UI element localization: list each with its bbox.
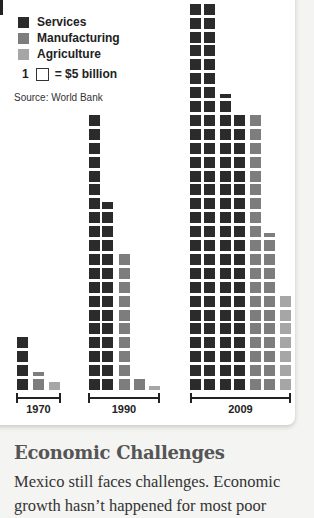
value-block (204, 296, 215, 307)
value-block (234, 143, 245, 154)
value-block (119, 254, 130, 265)
value-block (280, 296, 291, 307)
value-block (220, 282, 231, 293)
value-block (204, 254, 215, 265)
value-block (250, 337, 261, 348)
value-block (250, 254, 261, 265)
value-block (264, 310, 275, 321)
value-block (89, 184, 100, 195)
value-block (220, 254, 231, 265)
value-block (17, 379, 28, 390)
value-block (190, 254, 201, 265)
value-block (119, 296, 130, 307)
value-block (204, 73, 215, 84)
partial-value-block (49, 382, 60, 390)
section-body: Mexico still faces challenges. Economic … (14, 470, 314, 518)
value-block (220, 379, 231, 390)
value-block (204, 323, 215, 334)
value-block (220, 129, 231, 140)
value-block (234, 115, 245, 126)
value-block (102, 365, 113, 376)
value-block (264, 379, 275, 390)
value-block (190, 115, 201, 126)
value-block (234, 282, 245, 293)
value-block (220, 240, 231, 251)
value-block (220, 226, 231, 237)
value-block (204, 157, 215, 168)
value-block (280, 379, 291, 390)
value-block (190, 296, 201, 307)
value-block (204, 226, 215, 237)
value-block (190, 240, 201, 251)
value-block (250, 351, 261, 362)
year-range-bracket (88, 397, 160, 399)
value-block (190, 73, 201, 84)
value-block (102, 254, 113, 265)
partial-value-block (220, 94, 231, 98)
value-block (190, 184, 201, 195)
partial-value-block (149, 386, 160, 390)
value-block (234, 379, 245, 390)
value-block (17, 337, 28, 348)
value-block (119, 379, 130, 390)
value-block (264, 282, 275, 293)
value-block (250, 129, 261, 140)
value-block (234, 226, 245, 237)
value-block (220, 143, 231, 154)
value-block (280, 365, 291, 376)
value-block (102, 379, 113, 390)
value-block (220, 184, 231, 195)
value-block (17, 365, 28, 376)
value-block (190, 212, 201, 223)
value-block (33, 379, 44, 390)
value-block (220, 157, 231, 168)
value-block (234, 198, 245, 209)
value-block (220, 115, 231, 126)
value-block (220, 296, 231, 307)
value-block (190, 268, 201, 279)
value-block (190, 32, 201, 43)
value-block (102, 337, 113, 348)
value-block (102, 323, 113, 334)
value-block (250, 171, 261, 182)
value-block (234, 254, 245, 265)
partial-value-block (264, 233, 275, 237)
value-block (234, 323, 245, 334)
value-block (190, 351, 201, 362)
value-block (190, 282, 201, 293)
value-block (250, 268, 261, 279)
value-block (204, 282, 215, 293)
value-block (119, 282, 130, 293)
value-block (234, 171, 245, 182)
value-block (250, 240, 261, 251)
value-block (250, 143, 261, 154)
value-block (204, 4, 215, 15)
value-block (204, 101, 215, 112)
value-block (204, 198, 215, 209)
value-block (190, 59, 201, 70)
value-block (204, 310, 215, 321)
value-block (89, 157, 100, 168)
value-block (190, 337, 201, 348)
year-range-bracket (16, 397, 61, 399)
value-block (264, 240, 275, 251)
value-block (234, 212, 245, 223)
value-block (220, 337, 231, 348)
value-block (264, 351, 275, 362)
value-block (89, 365, 100, 376)
value-block (190, 226, 201, 237)
value-block (204, 115, 215, 126)
value-block (89, 143, 100, 154)
value-block (190, 323, 201, 334)
value-block (89, 115, 100, 126)
value-block (204, 268, 215, 279)
value-block (89, 240, 100, 251)
value-block (190, 129, 201, 140)
value-block (190, 45, 201, 56)
value-block (204, 171, 215, 182)
value-block (234, 365, 245, 376)
value-block (190, 198, 201, 209)
value-block (264, 323, 275, 334)
value-block (102, 212, 113, 223)
value-block (220, 310, 231, 321)
